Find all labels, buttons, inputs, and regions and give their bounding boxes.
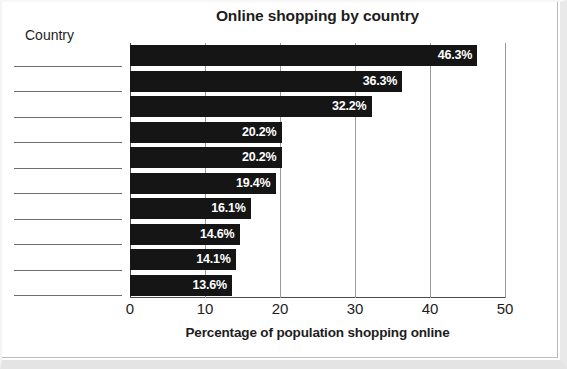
bar-value-label: 14.6% bbox=[187, 224, 235, 245]
worksheet-page: Online shopping by country Country 46.3%… bbox=[0, 0, 567, 369]
x-tick-label-10: 10 bbox=[185, 300, 225, 317]
bar-row: 32.2% bbox=[130, 94, 505, 120]
x-tick-label-20: 20 bbox=[260, 300, 300, 317]
x-tick-label-30: 30 bbox=[335, 300, 375, 317]
x-axis-title: Percentage of population shopping online bbox=[130, 325, 505, 340]
answer-line[interactable] bbox=[14, 270, 122, 271]
bar-row: 13.6% bbox=[130, 273, 505, 299]
bar-row: 36.3% bbox=[130, 69, 505, 95]
bar-row: 16.1% bbox=[130, 196, 505, 222]
answer-line[interactable] bbox=[14, 219, 122, 220]
bar-value-label: 13.6% bbox=[179, 275, 227, 296]
x-tick-label-0: 0 bbox=[110, 300, 150, 317]
bar-row: 19.4% bbox=[130, 171, 505, 197]
answer-line[interactable] bbox=[14, 91, 122, 92]
bar-value-label: 46.3% bbox=[424, 45, 472, 66]
chart-title: Online shopping by country bbox=[130, 7, 505, 25]
answer-line[interactable] bbox=[14, 66, 122, 67]
answer-line[interactable] bbox=[14, 295, 122, 296]
bar-row: 46.3% bbox=[130, 43, 505, 69]
answer-line[interactable] bbox=[14, 168, 122, 169]
country-column-header: Country bbox=[25, 27, 74, 43]
bar-value-label: 20.2% bbox=[229, 122, 277, 143]
answer-line[interactable] bbox=[14, 142, 122, 143]
bar-value-label: 14.1% bbox=[183, 249, 231, 270]
bar-value-label: 19.4% bbox=[223, 173, 271, 194]
bar-value-label: 16.1% bbox=[198, 198, 246, 219]
x-tick-label-50: 50 bbox=[485, 300, 525, 317]
bar-value-label: 32.2% bbox=[319, 96, 367, 117]
bar-row: 20.2% bbox=[130, 120, 505, 146]
answer-line[interactable] bbox=[14, 117, 122, 118]
bar-row: 14.6% bbox=[130, 222, 505, 248]
bar-row: 20.2% bbox=[130, 145, 505, 171]
bar-row: 14.1% bbox=[130, 247, 505, 273]
answer-line[interactable] bbox=[14, 193, 122, 194]
x-tick-label-40: 40 bbox=[410, 300, 450, 317]
answer-line[interactable] bbox=[14, 244, 122, 245]
bar-value-label: 20.2% bbox=[229, 147, 277, 168]
gridline-50 bbox=[505, 43, 506, 298]
plot-area: 46.3%36.3%32.2%20.2%20.2%19.4%16.1%14.6%… bbox=[130, 43, 505, 298]
bar-value-label: 36.3% bbox=[349, 71, 397, 92]
